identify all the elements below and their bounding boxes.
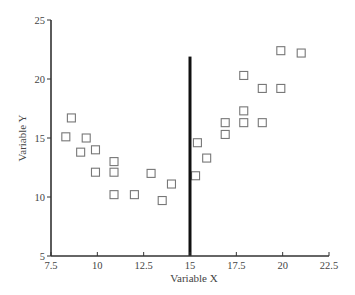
data-point-square: [110, 191, 118, 199]
data-point-square: [167, 180, 175, 188]
data-point-square: [91, 168, 99, 176]
data-point-square: [91, 146, 99, 154]
x-tick-label: 17.5: [227, 260, 245, 271]
data-point-square: [240, 119, 248, 127]
data-point-square: [67, 114, 75, 122]
data-point-square: [110, 168, 118, 176]
x-axis-title: Variable X: [170, 272, 217, 284]
y-tick-label: 20: [35, 74, 46, 85]
data-point-square: [297, 49, 305, 57]
data-point-square: [203, 154, 211, 162]
y-tick-label: 25: [35, 15, 46, 26]
scatter-chart: 7.51012.51517.52022.5 510152025 Variable…: [0, 0, 355, 295]
y-tick-label: 5: [40, 251, 45, 262]
data-point-square: [258, 119, 266, 127]
data-point-square: [130, 191, 138, 199]
y-axis-ticks: 510152025: [35, 15, 52, 262]
data-point-square: [258, 84, 266, 92]
data-points: [62, 47, 305, 205]
data-point-square: [82, 134, 90, 142]
x-tick-label: 20: [277, 260, 288, 271]
x-tick-label: 7.5: [44, 260, 57, 271]
data-point-square: [277, 84, 285, 92]
data-point-square: [147, 169, 155, 177]
data-point-square: [221, 119, 229, 127]
data-point-square: [158, 197, 166, 205]
y-axis-title: Variable Y: [16, 114, 28, 161]
data-point-square: [192, 172, 200, 180]
x-tick-label: 12.5: [134, 260, 152, 271]
data-point-square: [221, 130, 229, 138]
data-point-square: [240, 71, 248, 79]
y-tick-label: 10: [35, 192, 46, 203]
x-tick-label: 22.5: [320, 260, 338, 271]
data-point-square: [277, 47, 285, 55]
x-tick-label: 10: [92, 260, 103, 271]
data-point-square: [240, 107, 248, 115]
data-point-square: [110, 158, 118, 166]
data-point-square: [193, 139, 201, 147]
x-tick-label: 15: [185, 260, 196, 271]
y-tick-label: 15: [35, 133, 46, 144]
data-point-square: [77, 148, 85, 156]
data-point-square: [62, 133, 70, 141]
